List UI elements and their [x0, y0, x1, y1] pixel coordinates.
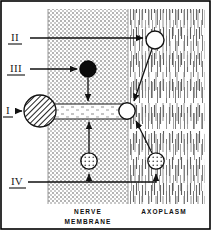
- black-circle: [80, 61, 96, 77]
- open-circle-channel: [119, 103, 135, 119]
- axoplasm-label: AXOPLASM: [141, 208, 187, 215]
- hatched-circle: [24, 95, 56, 127]
- nerve-membrane-label-line1: NERVE: [74, 208, 102, 215]
- label-IV-text: IV: [11, 175, 23, 187]
- stippled-circle-right: [148, 153, 164, 169]
- label-III-text: III: [10, 62, 22, 74]
- nerve-membrane-label-line2: MEMBRANE: [64, 218, 111, 225]
- open-circle-top: [146, 31, 164, 49]
- channel: [50, 104, 128, 119]
- diagram-figure: II III I IV NERVE MEMBRANE AXOPLASM: [0, 0, 211, 230]
- label-I-text: I: [6, 104, 10, 116]
- stippled-circle-left: [81, 153, 97, 169]
- label-II-text: II: [11, 31, 19, 43]
